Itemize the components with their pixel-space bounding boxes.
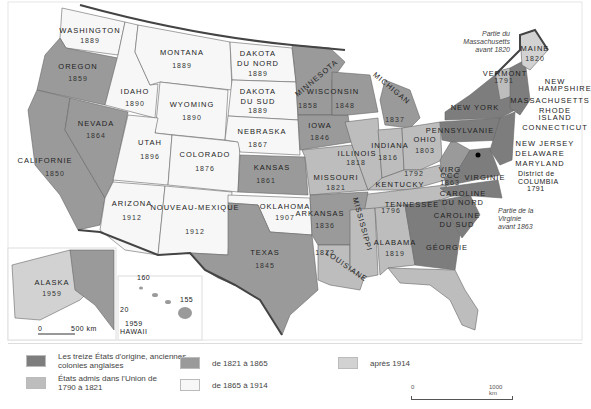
legend-item-1790-1821: États admis dans l'Union de 1790 à 1821	[26, 374, 176, 392]
svg-text:1846: 1846	[310, 134, 330, 141]
svg-text:HAMPSHIRE: HAMPSHIRE	[538, 84, 591, 93]
svg-text:avant 1820: avant 1820	[475, 46, 510, 53]
svg-text:ISLAND: ISLAND	[538, 113, 571, 122]
scale-bar: 0 1000 km	[411, 384, 511, 400]
svg-text:avant 1863: avant 1863	[498, 223, 533, 230]
svg-text:MISSOURI: MISSOURI	[313, 173, 358, 182]
svg-text:1837: 1837	[385, 116, 405, 123]
svg-text:DELAWARE: DELAWARE	[515, 149, 565, 158]
legend-swatch	[26, 355, 46, 367]
state-indiana	[378, 128, 404, 178]
svg-text:1796: 1796	[381, 207, 401, 214]
hawaii-island	[152, 293, 158, 297]
svg-text:NOUVEAU-MEXIQUE: NOUVEAU-MEXIQUE	[150, 203, 239, 212]
svg-text:1890: 1890	[125, 100, 145, 107]
svg-text:1821: 1821	[326, 184, 346, 191]
svg-text:500 km: 500 km	[71, 325, 97, 332]
svg-text:1959: 1959	[125, 320, 143, 327]
svg-text:ALABAMA: ALABAMA	[374, 238, 416, 247]
svg-text:WYOMING: WYOMING	[170, 100, 215, 109]
svg-text:MAINE: MAINE	[521, 44, 550, 53]
svg-text:CAROLINE: CAROLINE	[434, 211, 480, 220]
svg-text:NEVADA: NEVADA	[78, 119, 114, 128]
svg-text:PENNSYLVANIE: PENNSYLVANIE	[426, 126, 494, 135]
svg-text:OREGON: OREGON	[58, 62, 97, 71]
svg-text:WISCONSIN: WISCONSIN	[307, 87, 359, 96]
svg-text:Virginie: Virginie	[498, 215, 521, 223]
svg-text:ARIZONA: ARIZONA	[112, 199, 152, 208]
svg-text:NEBRASKA: NEBRASKA	[238, 127, 287, 136]
legend-item-after-1914: après 1914	[338, 357, 410, 369]
svg-text:CONNECTICUT: CONNECTICUT	[522, 123, 588, 132]
svg-text:TEXAS: TEXAS	[250, 248, 280, 257]
svg-text:1912: 1912	[122, 214, 142, 221]
svg-text:1858: 1858	[298, 102, 318, 109]
svg-text:1889: 1889	[248, 107, 268, 114]
svg-text:IOWA: IOWA	[308, 121, 332, 130]
svg-text:KANSAS: KANSAS	[254, 163, 290, 172]
svg-text:WASHINGTON: WASHINGTON	[59, 26, 120, 35]
svg-text:1859: 1859	[68, 75, 88, 82]
legend-swatch	[180, 379, 200, 391]
state-kansas	[238, 155, 308, 195]
svg-text:1907: 1907	[275, 214, 295, 221]
legend-swatch	[180, 357, 200, 369]
dc-marker	[476, 153, 481, 158]
svg-text:1864: 1864	[86, 132, 106, 139]
svg-text:MONTANA: MONTANA	[160, 48, 204, 57]
hawaii-island	[165, 300, 171, 304]
svg-text:ARKANSAS: ARKANSAS	[296, 209, 345, 218]
svg-text:MARYLAND: MARYLAND	[515, 159, 565, 168]
svg-text:1867: 1867	[248, 141, 268, 148]
svg-text:1792: 1792	[404, 170, 424, 177]
svg-text:ALASKA: ALASKA	[34, 278, 69, 287]
state-new-mexico	[158, 186, 232, 255]
svg-text:NEW JERSEY: NEW JERSEY	[516, 139, 575, 148]
svg-text:DU SUD: DU SUD	[241, 97, 276, 106]
svg-text:1803: 1803	[415, 147, 435, 154]
svg-text:155: 155	[180, 296, 193, 303]
svg-text:1845: 1845	[255, 262, 275, 269]
svg-text:1876: 1876	[195, 165, 215, 172]
svg-text:1791: 1791	[527, 185, 545, 192]
svg-text:1889: 1889	[172, 62, 192, 69]
svg-text:1890: 1890	[182, 114, 202, 121]
svg-text:1820: 1820	[525, 55, 545, 62]
svg-text:1819: 1819	[385, 250, 405, 257]
svg-text:1863: 1863	[440, 179, 460, 186]
svg-text:Partie de la: Partie de la	[498, 207, 534, 214]
svg-text:CAROLINE: CAROLINE	[440, 189, 486, 198]
svg-text:1818: 1818	[346, 159, 366, 166]
svg-text:KENTUCKY: KENTUCKY	[376, 180, 425, 189]
svg-text:DU SUD: DU SUD	[440, 220, 475, 229]
svg-text:1848: 1848	[335, 102, 355, 109]
svg-text:1889: 1889	[248, 70, 268, 77]
svg-text:UTAH: UTAH	[138, 138, 162, 147]
svg-text:COLUMBIA: COLUMBIA	[518, 178, 559, 185]
svg-text:Partie du: Partie du	[482, 30, 510, 37]
state-colorado	[168, 135, 240, 192]
state-wyoming	[155, 82, 228, 140]
svg-text:1816: 1816	[378, 154, 398, 161]
legend-swatch	[26, 377, 46, 389]
hawaii-island	[139, 287, 143, 290]
svg-text:DAKOTA: DAKOTA	[240, 87, 276, 96]
svg-text:Massachusetts: Massachusetts	[463, 38, 510, 45]
legend-item-original13: Les treize États d'origine, anciennes co…	[26, 352, 196, 370]
svg-text:IDAHO: IDAHO	[121, 87, 150, 96]
svg-text:ILLINOIS: ILLINOIS	[338, 149, 377, 158]
svg-text:District de: District de	[518, 170, 555, 177]
legend-item-1821-1865: de 1821 à 1865	[180, 357, 268, 369]
svg-text:1836: 1836	[315, 222, 335, 229]
svg-text:DU NORD: DU NORD	[442, 198, 484, 207]
hawaii-island	[178, 307, 192, 319]
svg-text:160: 160	[137, 274, 150, 281]
svg-text:COLORADO: COLORADO	[180, 150, 231, 159]
svg-text:1959: 1959	[42, 290, 62, 297]
svg-text:DAKOTA: DAKOTA	[240, 49, 276, 58]
legend-swatch	[338, 357, 358, 369]
svg-text:INDIANA: INDIANA	[371, 141, 408, 150]
svg-text:CALIFORNIE: CALIFORNIE	[17, 156, 72, 165]
svg-text:1812: 1812	[315, 249, 335, 256]
svg-text:GÉORGIE: GÉORGIE	[426, 243, 468, 252]
